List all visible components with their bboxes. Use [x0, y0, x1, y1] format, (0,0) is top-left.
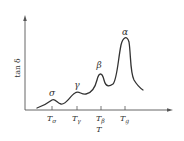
peak-label-gamma: γ — [74, 80, 80, 90]
y-axis-label: tan δ — [13, 58, 22, 78]
x-tick-labels: Tσ Tγ Tβ Tg — [47, 114, 129, 125]
tick-label-t-gamma: Tγ — [72, 114, 81, 125]
chart: σ γ β α Tσ Tγ Tβ Tg T tan δ — [0, 0, 184, 141]
peak-label-sigma: σ — [49, 88, 56, 98]
x-axis-arrow-icon — [167, 108, 173, 112]
tick-label-t-sigma: Tσ — [47, 114, 57, 124]
x-axis-label: T — [96, 125, 102, 134]
y-axis-arrow-icon — [23, 15, 27, 21]
peak-label-alpha: α — [122, 27, 128, 37]
peak-label-beta: β — [95, 60, 101, 70]
tick-label-t-g: Tg — [120, 114, 129, 125]
tick-label-t-beta: Tβ — [96, 114, 105, 125]
